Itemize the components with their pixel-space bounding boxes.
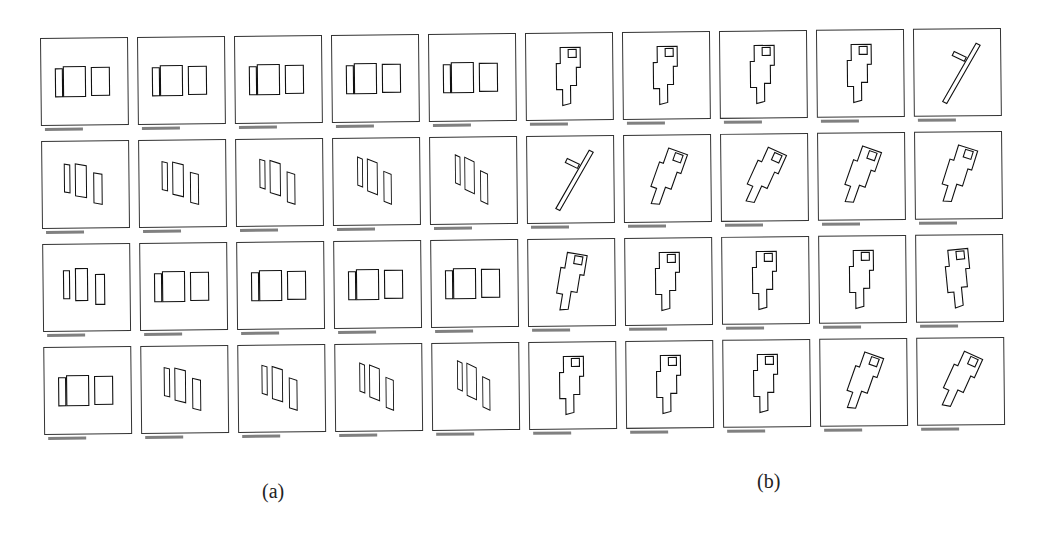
thumbnail-caption: [725, 223, 763, 226]
thumbnail-caption: [339, 433, 377, 436]
thumbnail: [234, 35, 323, 124]
thumbnail: [623, 134, 712, 223]
line-drawing: [721, 134, 808, 221]
line-drawing: [527, 136, 614, 223]
thumbnail: [236, 241, 325, 330]
thumbnail-caption: [240, 229, 278, 232]
thumbnail-caption: [336, 125, 374, 128]
thumbnail-caption: [921, 427, 959, 430]
thumbnail-caption: [239, 126, 277, 129]
thumbnail: [332, 137, 421, 226]
line-drawing: [138, 37, 225, 124]
thumbnail: [622, 31, 711, 120]
line-drawing: [820, 339, 907, 426]
thumbnail-caption: [919, 221, 957, 224]
thumbnail-caption: [47, 334, 85, 337]
thumbnail-caption: [629, 327, 667, 330]
thumbnail-caption: [435, 329, 473, 332]
line-drawing: [237, 242, 324, 329]
thumbnail: [818, 235, 907, 324]
thumbnail-caption: [628, 224, 666, 227]
thumbnail-caption: [727, 429, 765, 432]
thumbnail: [235, 138, 324, 227]
thumbnail: [625, 340, 714, 429]
line-drawing: [236, 139, 323, 226]
thumbnail: [429, 136, 518, 225]
thumbnail: [138, 139, 227, 228]
line-drawing: [334, 241, 421, 328]
thumbnail-caption: [241, 332, 279, 335]
line-drawing: [720, 31, 807, 118]
line-drawing: [625, 238, 712, 325]
thumbnail-caption: [436, 432, 474, 435]
thumbnail-caption: [533, 431, 571, 434]
thumbnail-caption: [531, 225, 569, 228]
thumbnail-caption: [920, 324, 958, 327]
thumbnail: [624, 237, 713, 326]
thumbnail: [40, 37, 129, 126]
thumbnail: [527, 238, 616, 327]
thumbnail: [720, 133, 809, 222]
line-drawing: [235, 36, 322, 123]
line-drawing: [818, 133, 905, 220]
line-drawing: [915, 132, 1002, 219]
thumbnail-caption: [532, 328, 570, 331]
thumbnail: [526, 135, 615, 224]
thumbnail: [915, 234, 1004, 323]
thumbnail: [719, 30, 808, 119]
line-drawing: [335, 344, 422, 431]
thumbnail-caption: [46, 231, 84, 234]
thumbnail-caption: [142, 127, 180, 130]
thumbnail-caption: [337, 228, 375, 231]
line-drawing: [624, 135, 711, 222]
thumbnail: [331, 34, 420, 123]
line-drawing: [916, 235, 1003, 322]
line-drawing: [914, 29, 1001, 116]
line-drawing: [429, 34, 516, 121]
thumbnail: [528, 341, 617, 430]
thumbnail-caption: [627, 121, 665, 124]
thumbnail: [817, 132, 906, 221]
line-drawing: [722, 237, 809, 324]
thumbnail-caption: [433, 123, 471, 126]
thumbnail-caption: [48, 437, 86, 440]
thumbnail-caption: [242, 435, 280, 438]
thumbnail-caption: [145, 436, 183, 439]
line-drawing: [431, 240, 518, 327]
thumbnail: [722, 339, 811, 428]
line-drawing: [917, 338, 1004, 425]
thumbnail-caption: [45, 128, 83, 131]
line-drawing: [141, 346, 228, 433]
line-drawing: [238, 345, 325, 432]
thumbnail-caption: [434, 226, 472, 229]
thumbnail-caption: [143, 230, 181, 233]
thumbnail: [334, 343, 423, 432]
thumbnail: [43, 346, 132, 435]
thumbnail-caption: [823, 325, 861, 328]
line-drawing: [817, 30, 904, 117]
panel-label-a: (a): [262, 480, 284, 503]
line-drawing: [140, 243, 227, 330]
thumbnail: [816, 29, 905, 118]
thumbnail-caption: [724, 120, 762, 123]
thumbnail: [819, 338, 908, 427]
line-drawing: [41, 38, 128, 125]
thumbnail-caption: [630, 430, 668, 433]
thumbnail: [525, 32, 614, 121]
thumbnail: [140, 345, 229, 434]
line-drawing: [44, 347, 131, 434]
line-drawing: [42, 141, 129, 228]
line-drawing: [526, 33, 613, 120]
thumbnail: [42, 243, 131, 332]
thumbnail: [916, 337, 1005, 426]
thumbnail-caption: [822, 222, 860, 225]
thumbnail-caption: [918, 118, 956, 121]
thumbnail: [237, 344, 326, 433]
thumbnail: [333, 240, 422, 329]
line-drawing: [333, 138, 420, 225]
thumbnail-grid: [40, 28, 1014, 448]
thumbnail-caption: [144, 333, 182, 336]
line-drawing: [430, 137, 517, 224]
thumbnail-caption: [338, 330, 376, 333]
thumbnail: [431, 342, 520, 431]
